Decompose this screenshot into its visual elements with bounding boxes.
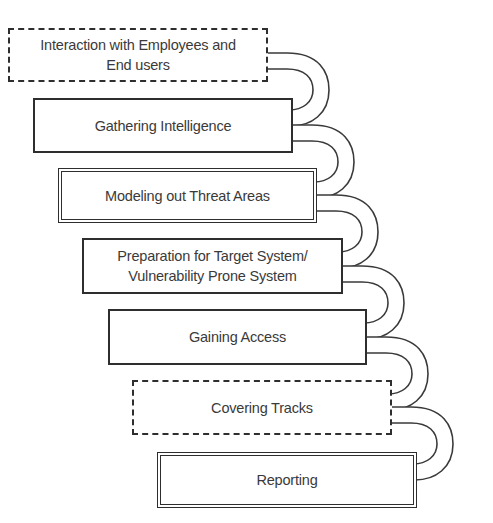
step-gaining-access: Gaining Access	[108, 309, 367, 365]
step-interaction-with-employees: Interaction with Employees and End users	[8, 28, 268, 82]
step-covering-tracks: Covering Tracks	[132, 380, 392, 435]
process-flow-diagram: Interaction with Employees and End users…	[0, 0, 493, 523]
step-gathering-intelligence: Gathering Intelligence	[33, 98, 293, 153]
step-preparation-target-system: Preparation for Target System/ Vulnerabi…	[82, 238, 343, 294]
step-label: Modeling out Threat Areas	[105, 186, 270, 206]
step-label: Preparation for Target System/ Vulnerabi…	[117, 246, 307, 286]
step-label: Interaction with Employees and End users	[40, 35, 236, 75]
step-label: Reporting	[256, 470, 317, 490]
step-label: Gathering Intelligence	[95, 116, 232, 136]
step-label: Covering Tracks	[211, 398, 313, 418]
step-label: Gaining Access	[189, 327, 286, 347]
step-reporting: Reporting	[157, 452, 417, 508]
step-modeling-threat-areas: Modeling out Threat Areas	[58, 168, 317, 223]
